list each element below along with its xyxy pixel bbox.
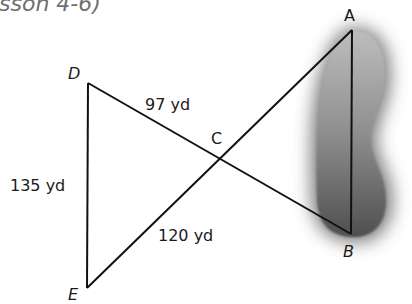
segment-DE xyxy=(87,83,88,288)
point-label-D: D xyxy=(68,66,80,82)
measurement-DE: 135 yd xyxy=(10,178,65,194)
point-label-B: B xyxy=(343,244,354,260)
point-label-E: E xyxy=(68,287,78,303)
segment-AB xyxy=(351,30,352,234)
measurement-EC: 120 yd xyxy=(158,228,213,244)
measurement-DC: 97 yd xyxy=(145,97,190,113)
point-label-C: C xyxy=(211,131,222,147)
point-label-A: A xyxy=(344,8,355,24)
